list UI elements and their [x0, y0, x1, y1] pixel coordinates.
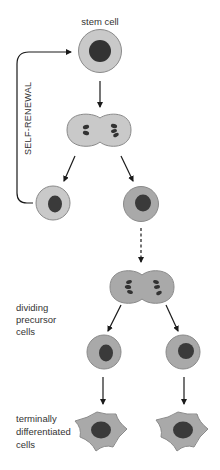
- svg-text:terminally: terminally: [16, 413, 57, 424]
- stem-cell: [79, 30, 122, 73]
- precursor-cell-left: [87, 335, 121, 369]
- differentiated-cell-left: [75, 412, 127, 451]
- svg-text:cells: cells: [16, 439, 35, 450]
- self-renewal-label: SELF-RENEWAL: [23, 82, 33, 155]
- dividing-precursor-cell: [110, 271, 174, 304]
- arrow-to-renewed-cell: [64, 156, 75, 181]
- renewed-stem-cell: [36, 186, 70, 220]
- arrow-to-precursor-right: [166, 305, 178, 331]
- svg-text:differentiated: differentiated: [16, 426, 71, 437]
- dividing-stem-cell: [67, 114, 131, 146]
- terminally-differentiated-label: terminally differentiated cells: [16, 413, 71, 450]
- dividing-precursor-label: dividing precursor cells: [16, 302, 56, 337]
- svg-text:precursor: precursor: [16, 314, 56, 325]
- arrow-to-committed-cell: [121, 156, 133, 181]
- arrow-to-precursor-left: [108, 305, 121, 331]
- svg-text:cells: cells: [16, 326, 35, 337]
- svg-text:dividing: dividing: [16, 302, 48, 313]
- stem-cell-label: stem cell: [81, 16, 118, 27]
- committed-cell: [124, 187, 159, 222]
- precursor-cell-right: [166, 335, 200, 369]
- differentiated-cell-right: [156, 412, 208, 451]
- stem-cell-diagram: stem cell SELF-RENEWAL: [0, 0, 220, 470]
